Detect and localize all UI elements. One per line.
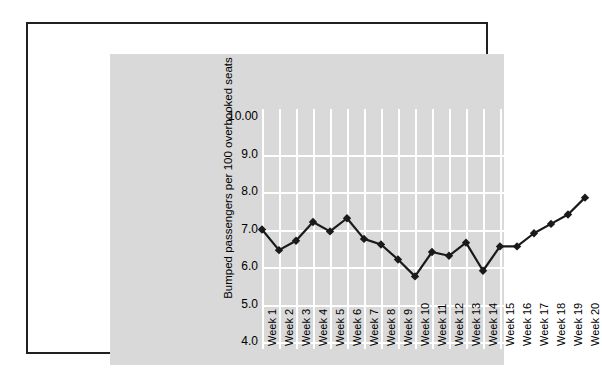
x-axis-tick-label: Week 9 — [402, 309, 414, 346]
y-axis-tick-label: 8.0 — [241, 184, 258, 198]
figure-frame: Bumped passengers per 100 overbooked sea… — [26, 22, 488, 354]
y-axis-tick-label: 9.0 — [241, 147, 258, 161]
y-axis-tick-label: 4.0 — [241, 334, 258, 348]
x-axis-tick-label: Week 15 — [504, 303, 516, 346]
y-axis-tick-label: 7.0 — [241, 222, 258, 236]
series-line — [262, 198, 585, 277]
x-axis-tick-label: Week 4 — [317, 309, 329, 346]
x-axis-tick-label: Week 12 — [453, 303, 465, 346]
x-axis-tick-label: Week 18 — [555, 303, 567, 346]
y-axis-tick-label: 10.00 — [228, 109, 258, 123]
data-series-line — [262, 109, 602, 354]
x-axis-tick-label: Week 10 — [419, 303, 431, 346]
x-axis-tick-label: Week 6 — [351, 309, 363, 346]
x-axis-tick-labels: Week 1Week 2Week 3Week 4Week 5Week 6Week… — [262, 346, 602, 385]
x-axis-tick-label: Week 7 — [368, 309, 380, 346]
x-axis-tick-label: Week 14 — [487, 303, 499, 346]
x-axis-tick-label: Week 17 — [538, 303, 550, 346]
x-axis-tick-label: Week 5 — [334, 309, 346, 346]
x-axis-tick-label: Week 11 — [436, 304, 448, 346]
y-axis-tick-labels: 10.009.08.07.06.05.04.0 — [202, 54, 258, 365]
x-axis-tick-label: Week 20 — [589, 303, 601, 346]
x-axis-tick-label: Week 1 — [266, 309, 278, 346]
y-axis-tick-label: 5.0 — [241, 297, 258, 311]
x-axis-tick-label: Week 16 — [521, 303, 533, 346]
x-axis-tick-label: Week 13 — [470, 303, 482, 346]
y-axis-tick-label: 6.0 — [241, 259, 258, 273]
x-axis-tick-label: Week 19 — [572, 303, 584, 346]
x-axis-tick-label: Week 3 — [300, 309, 312, 346]
data-point-marker — [547, 220, 555, 228]
x-axis-tick-label: Week 2 — [283, 309, 295, 346]
x-axis-tick-label: Week 8 — [385, 309, 397, 346]
chart-panel: Bumped passengers per 100 overbooked sea… — [110, 54, 504, 365]
